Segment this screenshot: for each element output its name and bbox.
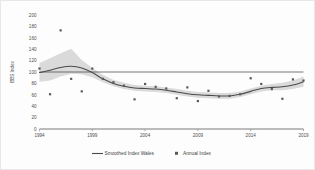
- x-tick-label: 1999: [87, 133, 98, 138]
- y-tick-label: 180: [29, 24, 37, 29]
- legend-label-smoothed-index-wales: Smoothed Index Wales: [105, 151, 155, 156]
- x-tick-label: 1994: [34, 133, 45, 138]
- plot-wrapper: 199419992004200920142019 020406080100120…: [1, 1, 315, 170]
- y-tick-label: 140: [29, 47, 37, 52]
- y-tick-label: 120: [29, 58, 37, 63]
- annual-index-point: [60, 29, 62, 31]
- annual-index-point: [49, 93, 51, 95]
- annual-index-point: [123, 85, 125, 87]
- x-tick-label: 2009: [193, 133, 204, 138]
- annual-index-point: [144, 83, 146, 85]
- x-tick-label: 2019: [298, 133, 309, 138]
- x-tick-label: 2014: [246, 133, 257, 138]
- annual-index-point: [70, 78, 72, 80]
- annual-index-point: [133, 98, 135, 100]
- chart-figure: 199419992004200920142019 020406080100120…: [0, 0, 315, 170]
- x-tick-label: 2004: [140, 133, 151, 138]
- y-tick-label: 80: [31, 81, 37, 86]
- y-tick-label: 200: [29, 13, 37, 18]
- y-axis-title: BBS Index: [10, 60, 15, 82]
- legend-annual-index-swatch: [175, 152, 178, 155]
- bbs-index-chart: 199419992004200920142019 020406080100120…: [1, 1, 315, 170]
- y-tick-label: 100: [29, 70, 37, 75]
- annual-index-point: [176, 97, 178, 99]
- annual-index-point: [302, 79, 304, 81]
- annual-index-point: [155, 86, 157, 88]
- annual-index-point: [292, 78, 294, 80]
- y-tick-label: 60: [31, 93, 37, 98]
- annual-index-point: [165, 87, 167, 89]
- y-tick-label: 0: [34, 127, 37, 132]
- axes-group: 199419992004200920142019 020406080100120…: [29, 13, 309, 138]
- annual-index-point: [260, 83, 262, 85]
- annual-index-point: [197, 100, 199, 102]
- annual-index-point: [102, 78, 104, 80]
- legend-label-annual-index: Annual Index: [183, 151, 212, 156]
- y-tick-label: 40: [31, 104, 37, 109]
- annual-index-point: [207, 90, 209, 92]
- annual-index-point: [250, 77, 252, 79]
- y-axis-title-group: BBS Index: [10, 60, 15, 82]
- annual-index-point: [271, 88, 273, 90]
- annual-index-point: [91, 67, 93, 69]
- annual-index-point: [218, 95, 220, 97]
- annual-index-point: [186, 86, 188, 88]
- annual-index-point: [38, 67, 40, 69]
- y-axis-ticks: 020406080100120140160180200: [29, 13, 37, 132]
- annual-index-point: [281, 98, 283, 100]
- annual-index-point: [112, 81, 114, 83]
- y-tick-label: 160: [29, 36, 37, 41]
- x-axis-ticks: 199419992004200920142019: [34, 129, 309, 138]
- chart-legend: Smoothed Index Wales Annual Index: [92, 151, 212, 156]
- y-tick-label: 20: [31, 115, 37, 120]
- annual-index-point: [239, 93, 241, 95]
- annual-index-point: [228, 95, 230, 97]
- annual-index-point: [81, 90, 83, 92]
